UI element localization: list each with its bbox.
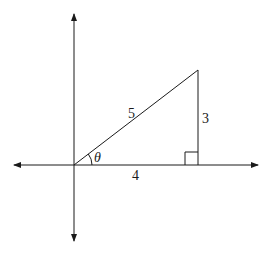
triangle-diagram: 5 3 4 θ: [0, 0, 268, 254]
adjacent-label: 4: [132, 168, 139, 183]
opposite-label: 3: [202, 111, 209, 126]
hypotenuse-label: 5: [128, 106, 135, 121]
right-angle-marker: [185, 152, 198, 165]
angle-arc: [88, 154, 92, 165]
angle-label: θ: [94, 150, 101, 165]
hypotenuse: [74, 70, 198, 165]
